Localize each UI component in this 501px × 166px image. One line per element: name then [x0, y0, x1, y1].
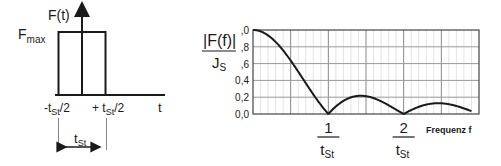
x-tick-denominator: tSt	[320, 141, 334, 160]
y-tick-labels: ,0,8,60,40,20,0	[235, 25, 249, 120]
x-tick-label: 1tSt	[317, 119, 339, 160]
y-title-numerator: |F(f)|	[203, 32, 236, 49]
ft-label: F(t)	[48, 7, 70, 23]
rect-pulse-diagram: F(t) Fmax t -tSt/2 + tSt/2 tSt	[18, 7, 165, 150]
x-tick-numerator: 2	[399, 119, 407, 136]
figure-canvas: F(t) Fmax t -tSt/2 + tSt/2 tSt ,0,8,60,4…	[0, 0, 501, 166]
x-tick-label: 2tSt	[393, 119, 415, 160]
t-axis-label: t	[158, 100, 162, 115]
y-tick-label: 0,4	[235, 75, 249, 86]
y-axis-title: |F(f)| JS	[202, 32, 236, 73]
fmax-label: Fmax	[18, 26, 45, 45]
y-tick-label: 0,2	[235, 92, 249, 103]
y-title-denominator: JS	[212, 54, 227, 73]
x-axis-title: Frequenz f	[426, 125, 473, 135]
left-edge-label: -tSt/2	[44, 101, 70, 117]
y-tick-label: 0,0	[235, 109, 249, 120]
spectrum-chart: ,0,8,60,40,20,0 1tSt2tSt |F(f)| JS Frequ…	[202, 25, 479, 160]
right-edge-label: + tSt/2	[92, 101, 125, 117]
major-grid	[253, 30, 479, 114]
spectrum-curve	[253, 30, 471, 114]
x-tick-labels: 1tSt2tSt	[317, 119, 414, 160]
x-tick-numerator: 1	[324, 119, 332, 136]
y-tick-label: ,8	[241, 42, 250, 53]
x-tick-denominator: tSt	[396, 141, 410, 160]
y-tick-label: ,0	[241, 25, 250, 36]
width-label: tSt	[74, 131, 87, 148]
y-tick-label: ,6	[241, 59, 250, 70]
